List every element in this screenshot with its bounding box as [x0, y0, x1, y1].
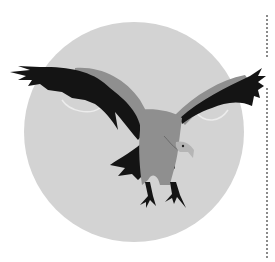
vulture-svg	[0, 0, 275, 262]
vulture-illustration	[0, 0, 275, 262]
dotted-line-bottom	[266, 88, 270, 258]
dotted-line-top	[266, 15, 270, 57]
